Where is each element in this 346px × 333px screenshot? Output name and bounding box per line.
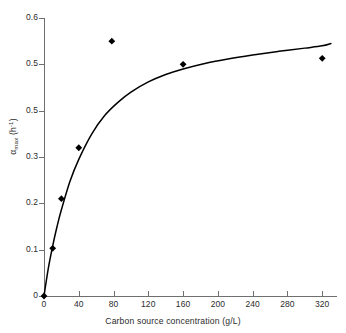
plot-area [0, 0, 346, 333]
data-point-marker [75, 144, 82, 151]
chart-figure: αmax (h-1) 00.10.20.30.50.50.60408012016… [0, 0, 346, 333]
data-point-marker [319, 55, 326, 62]
data-point-group [41, 38, 326, 300]
data-point-marker [108, 38, 115, 45]
x-axis-title: Carbon source concentration (g/L) [0, 316, 346, 326]
fitted-curve [44, 43, 331, 296]
data-point-marker [180, 61, 187, 68]
